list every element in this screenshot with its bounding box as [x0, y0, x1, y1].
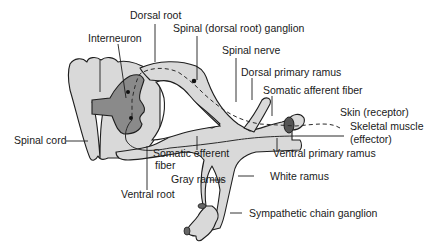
interneuron-body — [126, 90, 130, 94]
label-spinal-cord: Spinal cord — [14, 134, 67, 146]
label-ventral-root: Ventral root — [121, 188, 175, 200]
label-sympathetic-chain-ganglion: Sympathetic chain ganglion — [249, 207, 378, 219]
label-somatic-efferent-fiber: Somatic efferent — [153, 147, 229, 159]
label-somatic-efferent-fiber-2: fiber — [155, 159, 176, 171]
label-skeletal-muscle-effector: (effector) — [350, 133, 392, 145]
spinal-nerve-diagram: Dorsal root Spinal (dorsal root) ganglio… — [0, 0, 435, 246]
label-somatic-afferent-fiber: Somatic afferent fiber — [263, 84, 363, 96]
motor-neuron-body — [129, 116, 133, 120]
label-skin-receptor: Skin (receptor) — [340, 106, 409, 118]
label-skeletal-muscle: Skeletal muscle — [350, 120, 424, 132]
ganglion-cut-left — [184, 227, 190, 235]
ganglion-cut-top — [198, 204, 206, 209]
ganglion-neuron-body — [192, 79, 197, 84]
label-dorsal-primary-ramus: Dorsal primary ramus — [241, 66, 341, 78]
label-ventral-primary-ramus: Ventral primary ramus — [273, 147, 376, 159]
nerve-cut-end — [284, 117, 294, 133]
label-white-ramus: White ramus — [270, 170, 329, 182]
sympathetic-ganglion-shape — [186, 206, 218, 241]
label-gray-ramus: Gray ramus — [171, 173, 226, 185]
label-interneuron: Interneuron — [88, 32, 142, 44]
label-dorsal-root: Dorsal root — [130, 9, 181, 21]
label-spinal-nerve: Spinal nerve — [222, 44, 281, 56]
label-spinal-ganglion: Spinal (dorsal root) ganglion — [173, 22, 304, 34]
